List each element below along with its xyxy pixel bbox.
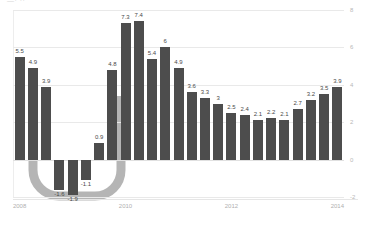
- bar: [266, 118, 276, 159]
- bar-value-label: 4.9: [174, 59, 182, 65]
- bar-value-label: 3.2: [307, 91, 315, 97]
- y-axis-tick-label: -2: [350, 194, 355, 200]
- bar: [240, 115, 250, 160]
- gridline: [13, 10, 344, 11]
- y-axis-tick-label: 0: [350, 157, 353, 163]
- bar: [253, 120, 263, 159]
- bar-chart: —· ·· 86420-25.54.93.9-1.6-1.9-1.10.94.8…: [0, 0, 367, 225]
- bar: [213, 104, 223, 160]
- bar-value-label: 2.1: [254, 111, 262, 117]
- bar-value-label: 4.9: [29, 59, 37, 65]
- bar: [81, 160, 91, 181]
- bar-value-label: 5.5: [15, 48, 23, 54]
- bar: [28, 68, 38, 160]
- bar: [134, 21, 144, 159]
- bar-value-label: -1.1: [81, 181, 91, 187]
- bar-value-label: 2.2: [267, 109, 275, 115]
- x-axis-tick-label: 2014: [331, 203, 344, 209]
- bar-value-label: 6: [164, 38, 167, 44]
- y-axis-tick-label: 8: [350, 7, 353, 13]
- x-axis-tick-label: 2012: [225, 203, 238, 209]
- bar: [279, 120, 289, 159]
- bar: [54, 160, 64, 190]
- bar-value-label: 2.5: [227, 104, 235, 110]
- bar-value-label: 2.4: [241, 106, 249, 112]
- bar: [147, 59, 157, 160]
- bar: [187, 92, 197, 159]
- bar-value-label: -1.6: [54, 191, 64, 197]
- bar: [68, 160, 78, 196]
- bar: [94, 143, 104, 160]
- gridline: [13, 197, 344, 198]
- y-axis-tick-label: 2: [350, 119, 353, 125]
- bar: [15, 57, 25, 160]
- bar: [306, 100, 316, 160]
- x-axis-tick-label: 2010: [119, 203, 132, 209]
- bar-value-label: 7.4: [135, 12, 143, 18]
- gridline: [13, 47, 344, 48]
- bar: [332, 87, 342, 160]
- bar-value-label: -1.9: [67, 196, 77, 202]
- bar: [41, 87, 51, 160]
- bar-value-label: 3: [217, 95, 220, 101]
- bar-value-label: 0.9: [95, 134, 103, 140]
- bar: [319, 94, 329, 159]
- bar-value-label: 3.9: [42, 78, 50, 84]
- bar-value-label: 7.3: [121, 14, 129, 20]
- bar-value-label: 5.4: [148, 50, 156, 56]
- bar: [226, 113, 236, 160]
- y-axis-tick-label: 6: [350, 44, 353, 50]
- bar-value-label: 3.9: [333, 78, 341, 84]
- x-axis-line: [13, 199, 358, 200]
- bar: [200, 98, 210, 160]
- bar: [121, 23, 131, 160]
- x-axis-tick-label: 2008: [13, 203, 26, 209]
- bar: [107, 70, 117, 160]
- top-crop-artifact-text: —· ··: [7, 0, 25, 4]
- bar-value-label: 4.8: [108, 61, 116, 67]
- bar: [174, 68, 184, 160]
- y-axis-tick-label: 4: [350, 82, 353, 88]
- bar-value-label: 3.6: [188, 83, 196, 89]
- bar-value-label: 2.1: [280, 111, 288, 117]
- bar-value-label: 3.5: [320, 85, 328, 91]
- bar-value-label: 2.7: [293, 100, 301, 106]
- bar: [160, 47, 170, 159]
- bar: [293, 109, 303, 159]
- bar-value-label: 3.3: [201, 89, 209, 95]
